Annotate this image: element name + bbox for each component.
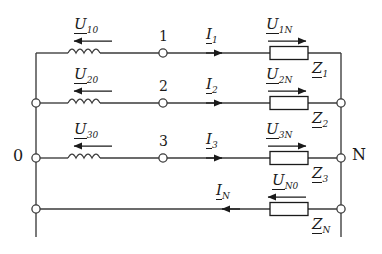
current-label-1: I1 [206,26,218,44]
load-voltage-symbol-n0: U [272,173,285,190]
impedance-label-3: Z3 [312,165,328,183]
load-voltage-subscript-2n: 2N [279,75,293,85]
impedance-symbol-2: Z [312,111,322,128]
node-label-2: 2 [159,79,168,93]
source-label-3: U30 [74,121,98,139]
node-label-1: 1 [159,29,168,43]
current-label-n: IN [216,182,230,200]
source-subscript-1: 10 [87,25,98,35]
impedance-subscript-2: 2 [322,119,328,129]
terminal-dot-left-4 [32,205,40,213]
impedance-symbol-1: Z [312,61,322,78]
impedance-label-1: Z1 [312,60,328,78]
node-dot-1 [159,49,167,57]
terminal-dot-right-2 [337,99,345,107]
source-label-1: U10 [74,16,98,34]
phase-1-branch [36,47,341,60]
source-symbol-3: U [74,122,87,139]
impedance-label-2: Z2 [312,110,328,128]
impedance-symbol-3: Z [312,166,322,183]
terminal-dot-right-4 [337,205,345,213]
terminal-dot-left-2 [32,99,40,107]
source-subscript-2: 20 [87,75,98,85]
current-subscript-n: N [222,191,230,201]
source-symbol-2: U [74,67,87,84]
current-label-3: I3 [206,131,218,149]
load-voltage-symbol-2n: U [266,67,279,84]
source-label-2: U20 [74,66,98,84]
neutral-branch [36,203,341,216]
load-voltage-subscript-3n: 3N [279,130,293,140]
impedance-label-n: ZN [312,216,330,234]
load-voltage-symbol-3n: U [266,122,279,139]
impedance-symbol-n: Z [312,217,322,234]
load-voltage-subscript-1n: 1N [279,25,293,35]
node-dot-3 [159,154,167,162]
source-symbol-1: U [74,17,87,34]
current-subscript-3: 3 [212,140,218,150]
load-voltage-label-n0: UN0 [272,172,298,190]
impedance-subscript-n: N [322,225,330,235]
terminal-dot-right-N [337,154,345,162]
load-voltage-label-2n: U2N [266,66,292,84]
circuit-diagram-canvas: U10 U20 U30 1 2 3 I1 I2 I3 IN U1N U2N U3… [0,0,382,254]
current-subscript-1: 1 [212,35,218,45]
impedance-subscript-3: 3 [322,174,328,184]
load-voltage-symbol-1n: U [266,17,279,34]
terminal-dot-left-0 [32,154,40,162]
current-label-2: I2 [206,76,218,94]
load-voltage-subscript-n0: N0 [285,181,299,191]
current-subscript-2: 2 [212,85,218,95]
impedance-subscript-1: 1 [322,69,328,79]
load-voltage-label-1n: U1N [266,16,292,34]
phase-3-branch [36,152,341,165]
load-voltage-label-3n: U3N [266,121,292,139]
source-subscript-3: 30 [87,130,98,140]
node-dot-2 [159,99,167,107]
phase-2-branch [36,97,341,110]
node-label-3: 3 [159,134,168,148]
terminal-label-0: 0 [13,148,23,164]
terminal-label-n: N [352,147,366,163]
